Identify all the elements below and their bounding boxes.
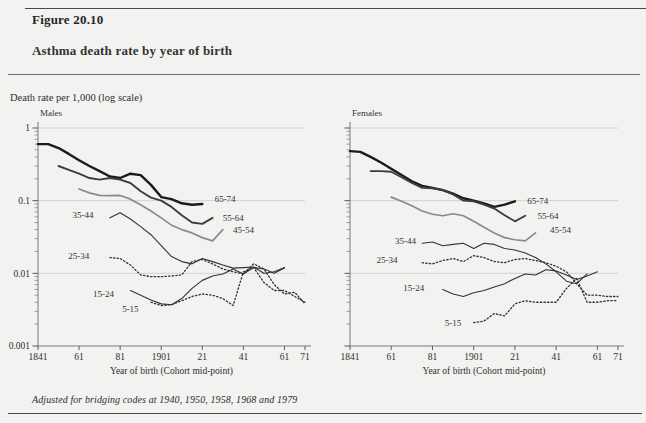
chart-panel-males: Males10.10.010.00118416181190121416171Ye… [0, 100, 322, 390]
series-line-25-34 [110, 258, 305, 304]
series-label-5-15: 5-15 [122, 304, 139, 314]
series-label-65-74: 65-74 [527, 196, 548, 206]
plot-area-females: Females18416181190121416171Year of birth… [322, 100, 646, 390]
series-label-15-24: 15-24 [403, 283, 424, 293]
panel-title: Females [352, 108, 382, 118]
y-tick-label: 0.001 [9, 341, 31, 351]
y-tick-label: 0.1 [18, 196, 30, 206]
x-tick-label: 41 [239, 352, 249, 362]
x-tick-label: 81 [428, 352, 438, 362]
series-label-55-64: 55-64 [223, 213, 244, 223]
series-label-45-54: 45-54 [233, 225, 254, 235]
x-tick-label: 61 [280, 352, 290, 362]
x-tick-label: 1841 [29, 352, 48, 362]
x-tick-label: 61 [74, 352, 84, 362]
top-divider [25, 8, 646, 9]
x-tick-label: 61 [386, 352, 396, 362]
x-tick-label: 1901 [464, 352, 483, 362]
x-tick-label: 21 [198, 352, 208, 362]
x-tick-label: 71 [300, 352, 310, 362]
series-label-25-34: 25-34 [68, 251, 89, 261]
y-tick-label: 1 [25, 123, 30, 133]
series-line-65-74 [350, 151, 515, 207]
figure-title: Asthma death rate by year of birth [32, 43, 232, 59]
series-label-45-54: 45-54 [550, 225, 571, 235]
x-tick-label: 61 [593, 352, 603, 362]
figure-container: Figure 20.10 Asthma death rate by year o… [0, 0, 646, 423]
series-label-55-64: 55-64 [538, 211, 559, 221]
y-tick-label: 0.01 [13, 269, 30, 279]
header-divider [8, 74, 640, 75]
bottom-divider [8, 413, 642, 414]
series-label-5-15: 5-15 [445, 318, 462, 328]
series-label-35-44: 35-44 [395, 236, 416, 246]
series-line-55-64 [371, 171, 526, 221]
series-line-35-44 [110, 213, 285, 273]
plot-area-males: Males10.10.010.00118416181190121416171Ye… [0, 100, 322, 390]
series-line-45-54 [391, 197, 535, 241]
series-label-65-74: 65-74 [215, 194, 236, 204]
x-tick-label: 21 [510, 352, 520, 362]
chart-panel-females: Females18416181190121416171Year of birth… [322, 100, 646, 390]
x-axis-title: Year of birth (Cohort mid-point) [110, 366, 233, 377]
x-tick-label: 1841 [341, 352, 360, 362]
series-line-5-15 [474, 278, 618, 322]
x-tick-label: 1901 [152, 352, 171, 362]
series-label-25-34: 25-34 [376, 255, 397, 265]
x-tick-label: 41 [551, 352, 561, 362]
figure-number: Figure 20.10 [32, 12, 104, 28]
x-axis-title: Year of birth (Cohort mid-point) [422, 366, 545, 377]
series-label-35-44: 35-44 [72, 210, 93, 220]
series-label-15-24: 15-24 [93, 289, 114, 299]
x-tick-label: 81 [115, 352, 125, 362]
panel-title: Males [40, 108, 62, 118]
figure-footnote: Adjusted for bridging codes at 1940, 195… [32, 394, 297, 405]
x-tick-label: 71 [613, 352, 623, 362]
